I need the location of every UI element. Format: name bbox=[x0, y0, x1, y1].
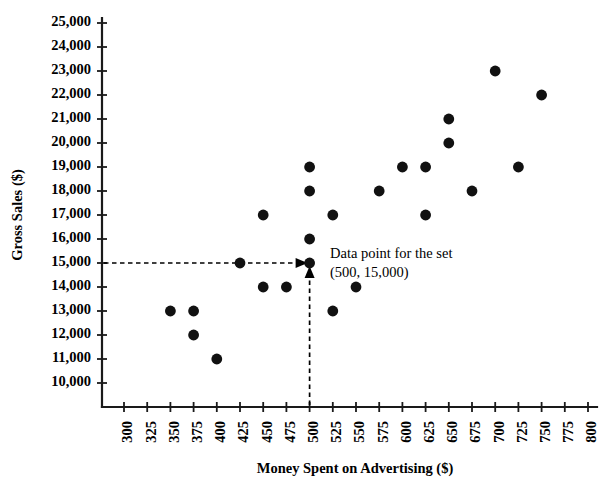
y-axis-tick-label: 11,000 bbox=[52, 349, 91, 365]
annotation-line-1: Data point for the set bbox=[330, 245, 452, 261]
y-axis-tick-label: 21,000 bbox=[51, 109, 91, 125]
data-point bbox=[258, 210, 269, 221]
data-point bbox=[443, 138, 454, 149]
chart-background bbox=[0, 0, 608, 488]
y-axis-tick-label: 17,000 bbox=[51, 205, 91, 221]
x-axis-tick-label: 725 bbox=[514, 421, 530, 443]
x-axis-tick-label: 400 bbox=[212, 421, 228, 443]
data-point bbox=[397, 162, 408, 173]
y-axis-tick-label: 20,000 bbox=[51, 133, 91, 149]
data-point bbox=[258, 282, 269, 293]
data-point bbox=[165, 306, 176, 317]
y-axis-tick-label: 10,000 bbox=[51, 373, 91, 389]
data-point bbox=[351, 282, 362, 293]
data-point bbox=[443, 114, 454, 125]
data-point bbox=[420, 162, 431, 173]
x-axis-tick-label: 500 bbox=[305, 421, 321, 443]
y-axis-tick-label: 12,000 bbox=[51, 325, 91, 341]
x-axis-tick-label: 300 bbox=[119, 421, 135, 443]
y-axis-tick-label: 22,000 bbox=[51, 85, 91, 101]
x-axis-title: Money Spent on Advertising ($) bbox=[257, 460, 454, 477]
x-axis-tick-label: 450 bbox=[259, 421, 275, 443]
x-axis-tick-label: 650 bbox=[444, 421, 460, 443]
data-point bbox=[420, 210, 431, 221]
annotation-line-2: (500, 15,000) bbox=[330, 264, 409, 281]
x-axis-tick-label: 475 bbox=[282, 421, 298, 443]
data-point bbox=[536, 90, 547, 101]
x-axis-tick-label: 700 bbox=[491, 421, 507, 443]
data-point bbox=[304, 234, 315, 245]
data-point bbox=[304, 162, 315, 173]
x-axis-tick-label: 550 bbox=[351, 421, 367, 443]
data-point bbox=[327, 306, 338, 317]
x-axis-tick-label: 575 bbox=[375, 421, 391, 443]
x-axis-tick-label: 525 bbox=[328, 421, 344, 443]
data-point bbox=[490, 66, 501, 77]
chart-canvas: 25,00024,00023,00022,00021,00020,00019,0… bbox=[0, 0, 608, 488]
x-axis-tick-label: 600 bbox=[398, 421, 414, 443]
y-axis-tick-label: 18,000 bbox=[51, 181, 91, 197]
x-axis-tick-label: 775 bbox=[560, 421, 576, 443]
y-axis-tick-label: 24,000 bbox=[51, 37, 91, 53]
data-point bbox=[304, 258, 315, 269]
x-axis-tick-label: 675 bbox=[467, 421, 483, 443]
x-axis-tick-label: 350 bbox=[166, 421, 182, 443]
data-point bbox=[304, 186, 315, 197]
y-axis-tick-label: 13,000 bbox=[51, 301, 91, 317]
data-point bbox=[188, 306, 199, 317]
x-axis-tick-label: 325 bbox=[143, 421, 159, 443]
data-point bbox=[374, 186, 385, 197]
x-axis-tick-label: 625 bbox=[421, 421, 437, 443]
y-axis-tick-label: 23,000 bbox=[51, 61, 91, 77]
data-point bbox=[467, 186, 478, 197]
x-axis-tick-label: 425 bbox=[235, 421, 251, 443]
y-axis-tick-label: 16,000 bbox=[51, 229, 91, 245]
data-point bbox=[211, 354, 222, 365]
x-axis-tick-label: 750 bbox=[537, 421, 553, 443]
x-axis-tick-label: 800 bbox=[583, 421, 599, 443]
y-axis-title: Gross Sales ($) bbox=[9, 169, 26, 261]
data-point bbox=[235, 258, 246, 269]
y-axis-tick-label: 25,000 bbox=[51, 13, 91, 29]
data-point bbox=[281, 282, 292, 293]
y-axis-tick-label: 14,000 bbox=[51, 277, 91, 293]
y-axis-tick-label: 19,000 bbox=[51, 157, 91, 173]
x-axis-tick-label: 375 bbox=[189, 421, 205, 443]
scatter-plot-figure: 25,00024,00023,00022,00021,00020,00019,0… bbox=[0, 0, 608, 488]
data-point bbox=[188, 330, 199, 341]
data-point bbox=[327, 210, 338, 221]
y-axis-tick-label: 15,000 bbox=[51, 253, 91, 269]
data-point bbox=[513, 162, 524, 173]
